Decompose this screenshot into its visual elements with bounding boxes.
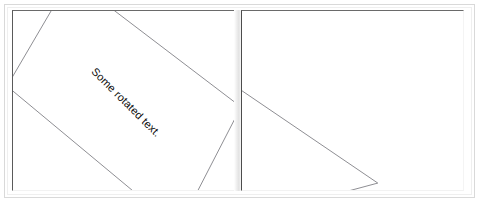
screenshot-stage: Some rotated text. Some rotated text.	[0, 0, 481, 205]
page-panel-left[interactable]: Some rotated text.	[12, 10, 235, 191]
page-right-canvas: Some rotated text.	[242, 11, 463, 190]
rotated-text-left: Some rotated text.	[89, 65, 163, 139]
rotated-rectangle-outline-right	[242, 11, 378, 190]
page-gutter	[234, 10, 241, 191]
page-left-canvas: Some rotated text.	[13, 11, 235, 190]
page-panel-right[interactable]: Some rotated text.	[241, 10, 464, 191]
